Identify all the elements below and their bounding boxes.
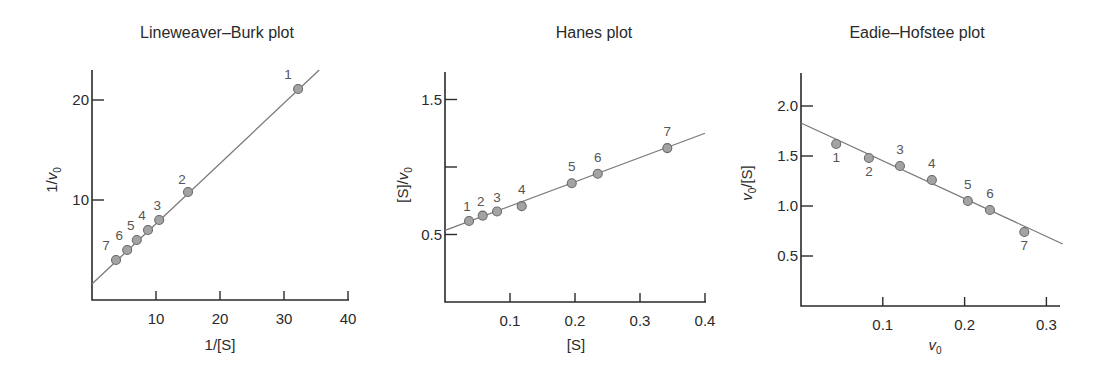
data-point [864,154,873,163]
data-point-label: 2 [477,194,485,209]
data-point-label: 6 [594,150,602,165]
xlabel-sub: 0 [936,345,942,356]
data-point-label: 3 [493,190,501,205]
eadie-hofstee-xlabel: v0 [928,336,942,356]
axes [445,72,706,302]
data-point [184,188,193,197]
ylabel-post: /[S] [738,165,755,188]
eadie-hofstee-title: Eadie–Hofstee plot [849,24,985,41]
axes [92,70,349,300]
data-point [985,206,994,215]
data-point-label: 4 [138,208,146,223]
y-tick-label: 1.0 [777,197,798,214]
data-point-label: 7 [102,238,110,253]
data-point [123,246,132,255]
x-tick-label: 0.4 [695,312,716,329]
data-point-label: 6 [986,186,994,201]
data-point-label: 2 [178,172,186,187]
data-point [493,207,502,216]
x-tick-label: 0.1 [500,312,521,329]
x-tick-label: 10 [148,310,165,327]
y-tick-label: 1.5 [777,147,798,164]
ylabel-sub: 0 [52,167,63,173]
lineweaver-burk-plot: 1020304010201234567 [72,67,356,327]
lineweaver-burk-xlabel: 1/[S] [205,336,236,353]
axes [801,73,1060,306]
data-point-label: 6 [115,228,123,243]
eadie-hofstee-plot: 0.10.20.30.51.01.52.01234567 [777,73,1063,333]
data-point-label: 5 [568,159,576,174]
data-point-label: 1 [284,67,292,82]
data-point-label: 7 [1021,238,1029,253]
data-point [478,211,487,220]
ylabel-sub: 0 [403,167,414,173]
ylabel-pre: 1/ [43,179,60,192]
x-tick-label: 30 [276,310,293,327]
x-tick-label: 40 [340,310,357,327]
y-tick-label: 10 [72,191,89,208]
x-tick-label: 0.3 [1036,316,1057,333]
x-tick-label: 0.1 [872,316,893,333]
lineweaver-burk-title: Lineweaver–Burk plot [140,24,294,41]
data-point-label: 2 [865,164,873,179]
data-point [927,176,936,185]
data-point-label: 7 [664,124,672,139]
y-tick-label: 0.5 [421,226,442,243]
data-point [155,216,164,225]
x-tick-label: 0.3 [630,312,651,329]
data-point [465,217,474,226]
data-point-label: 1 [832,150,840,165]
data-point-label: 3 [153,198,161,213]
data-point-label: 5 [964,177,972,192]
y-tick-label: 2.0 [777,97,798,114]
data-point [144,226,153,235]
data-point [832,140,841,149]
data-point [1020,228,1029,237]
data-point-label: 5 [127,218,135,233]
lineweaver-burk-ylabel: 1/v0 [43,167,63,193]
y-tick-label: 20 [72,91,89,108]
x-tick-label: 20 [212,310,229,327]
data-point-label: 4 [928,156,936,171]
ylabel-pre: [S]/ [394,179,411,202]
data-point [567,179,576,188]
y-tick-label: 0.5 [777,247,798,264]
hanes-xlabel: [S] [567,336,585,353]
x-tick-label: 0.2 [954,316,975,333]
data-point [132,236,141,245]
x-tick-label: 0.2 [565,312,586,329]
data-point [112,256,121,265]
data-point-label: 4 [518,182,526,197]
data-point [963,197,972,206]
data-point [593,169,602,178]
hanes-plot: 0.10.20.30.40.51.51234567 [421,72,715,329]
data-point-label: 3 [896,142,904,157]
kinetics-plots-figure: 1020304010201234567 0.10.20.30.40.51.512… [0,0,1096,375]
data-point [895,162,904,171]
hanes-ylabel: [S]/v0 [394,167,414,203]
y-tick-label: 1.5 [421,91,442,108]
data-point [663,144,672,153]
hanes-title: Hanes plot [556,24,633,41]
data-point [517,202,526,211]
eadie-hofstee-ylabel: v0/[S] [738,165,758,201]
data-point [294,85,303,94]
data-point-label: 1 [463,199,471,214]
